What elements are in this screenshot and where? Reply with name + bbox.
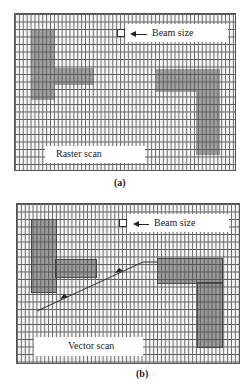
vector-scan-path [0,0,251,391]
arrow-left-icon [133,221,139,227]
vector-scan-label: Vector scan [68,340,114,351]
beam-size-label-b: Beam size [154,217,195,228]
panel-b-caption: (b) [136,368,148,379]
beam-size-square-b [119,219,127,227]
